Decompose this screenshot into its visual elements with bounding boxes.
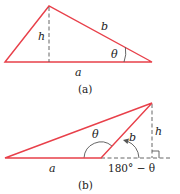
label-a-a: a [75, 66, 82, 79]
label-theta-a: θ [111, 48, 118, 61]
label-b-a: b [101, 20, 108, 33]
figure-a: h b θ a (a) [5, 6, 152, 95]
angle-arc-a [124, 47, 126, 62]
figure-b: θ b h a 180° − θ (b) [5, 103, 172, 191]
label-a-b: a [49, 162, 56, 175]
triangle-a [5, 6, 152, 62]
label-b-b: b [129, 131, 136, 144]
caption-a: (a) [78, 83, 92, 95]
caption-b: (b) [78, 179, 93, 191]
label-h-a: h [38, 30, 45, 43]
label-h-b: h [155, 125, 162, 138]
label-supplement-b: 180° − θ [108, 162, 155, 174]
right-angle-marker-b [152, 151, 159, 158]
label-theta-b: θ [92, 128, 99, 141]
triangle-area-diagram: h b θ a (a) θ b h a 180° − θ (b) [0, 0, 180, 194]
